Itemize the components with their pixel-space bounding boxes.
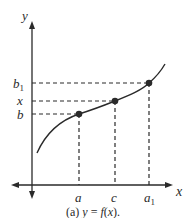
function-curve	[37, 64, 165, 153]
y-axis-down-arrow-icon	[29, 191, 35, 199]
point-a1-b1	[146, 80, 153, 87]
x-tick-a1: a1	[144, 190, 155, 207]
x-axis-label: x	[175, 184, 183, 199]
y-tick-x: x	[16, 93, 23, 108]
x-tick-a: a	[75, 190, 82, 205]
y-tick-b: b	[17, 107, 24, 122]
function-graph-diagram: y x b1 x b a c a1 (a) y = f(x).	[0, 0, 195, 218]
point-a-b	[76, 111, 83, 118]
y-axis-label: y	[20, 8, 28, 23]
y-axis-up-arrow-icon	[29, 21, 35, 29]
figure-caption: (a) y = f(x).	[66, 205, 120, 218]
x-axis-right-arrow-icon	[165, 182, 173, 188]
x-tick-c: c	[111, 190, 117, 205]
y-tick-b1: b1	[13, 76, 24, 93]
point-c-x	[112, 98, 119, 105]
x-axis-left-arrow-icon	[11, 182, 19, 188]
